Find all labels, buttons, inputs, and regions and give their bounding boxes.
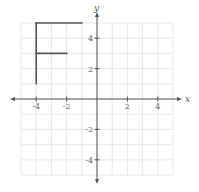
x-tick-label: -2 xyxy=(63,102,71,111)
y-axis-down-arrow-icon xyxy=(95,179,99,184)
y-tick-label: 4 xyxy=(88,34,93,43)
x-axis-right-arrow-icon xyxy=(177,97,182,101)
x-axis-label: x xyxy=(185,94,190,104)
x-tick-label: 4 xyxy=(155,102,160,111)
y-axis-label: y xyxy=(93,3,100,13)
x-axis-left-arrow-icon xyxy=(10,97,15,101)
y-tick-label: -2 xyxy=(85,125,93,134)
graph-svg: -4-22442-2-4xy xyxy=(0,0,199,192)
x-tick-label: 2 xyxy=(125,102,130,111)
y-tick-label: -4 xyxy=(85,156,93,165)
x-tick-label: -4 xyxy=(32,102,40,111)
y-tick-label: 2 xyxy=(88,65,93,74)
coordinate-plane: -4-22442-2-4xy xyxy=(0,0,199,192)
